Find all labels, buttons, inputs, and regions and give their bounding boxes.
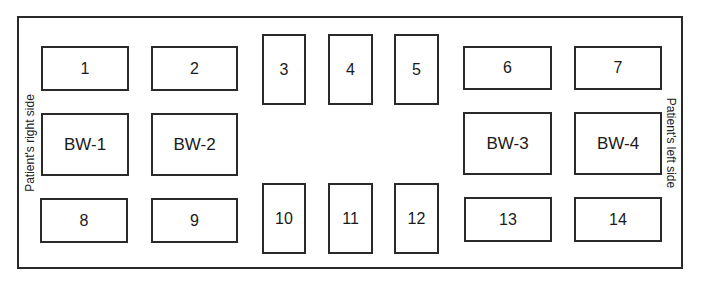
- film-slot-8: 8: [40, 198, 128, 243]
- film-slot-label: BW-1: [64, 135, 106, 155]
- film-slot-6: 6: [463, 46, 552, 90]
- film-slot-bw-1: BW-1: [41, 113, 129, 176]
- film-slot-label: 2: [190, 60, 199, 78]
- film-slot-3: 3: [262, 34, 306, 105]
- film-slot-13: 13: [464, 197, 552, 242]
- film-slot-label: 7: [614, 59, 623, 77]
- film-slot-1: 1: [41, 46, 129, 91]
- film-slot-label: 14: [609, 211, 627, 229]
- film-slot-label: 1: [81, 60, 90, 78]
- film-slot-label: 8: [80, 212, 89, 230]
- film-slot-label: 13: [499, 211, 517, 229]
- film-slot-label: BW-4: [597, 134, 639, 154]
- film-slot-label: 11: [342, 210, 359, 228]
- film-slot-9: 9: [151, 198, 238, 243]
- film-slot-12: 12: [394, 183, 439, 254]
- film-slot-10: 10: [262, 183, 306, 254]
- film-slot-bw-2: BW-2: [151, 113, 238, 176]
- film-slot-4: 4: [328, 34, 373, 105]
- film-slot-7: 7: [574, 46, 662, 90]
- film-slot-label: 6: [503, 59, 512, 77]
- film-slot-label: 12: [408, 210, 426, 228]
- patient-right-side-label: Patient's right side: [23, 94, 37, 192]
- patient-left-side-label: Patient's left side: [664, 98, 678, 188]
- film-slot-bw-3: BW-3: [463, 112, 552, 175]
- film-slot-label: 3: [280, 61, 289, 79]
- film-slot-label: 5: [412, 61, 421, 79]
- film-slot-5: 5: [394, 34, 439, 105]
- film-slot-label: BW-3: [486, 134, 528, 154]
- film-slot-label: 9: [190, 212, 199, 230]
- film-slot-label: BW-2: [173, 135, 215, 155]
- film-slot-14: 14: [574, 197, 662, 242]
- film-slot-label: 10: [275, 210, 293, 228]
- film-slot-11: 11: [328, 183, 373, 254]
- film-slot-bw-4: BW-4: [574, 112, 662, 175]
- film-slot-label: 4: [346, 61, 355, 79]
- film-slot-2: 2: [151, 46, 238, 91]
